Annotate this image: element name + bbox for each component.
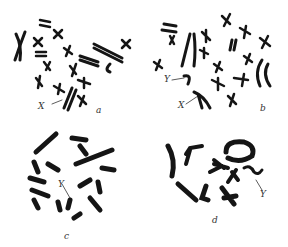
chromosome-figure: X a Y X b Y c Y d [0, 0, 288, 247]
panel-c-chromosomes [30, 134, 114, 218]
panel-a-chromosomes [15, 20, 130, 110]
panel-a-label: a [96, 106, 101, 115]
panel-c-y-annotation: Y [58, 180, 64, 189]
panel-d-label: d [212, 216, 218, 225]
panel-b-y-annotation: Y [164, 75, 170, 84]
panel-d-chromosomes [168, 142, 262, 204]
chromosome-drawing [0, 0, 288, 247]
panel-d-y-annotation: Y [260, 190, 266, 199]
panel-c-label: c [64, 232, 69, 241]
panel-b-x-annotation: X [178, 101, 184, 110]
panel-a-x-annotation: X [38, 102, 44, 111]
panel-b-label: b [260, 104, 266, 113]
panel-b-chromosomes [154, 14, 270, 108]
